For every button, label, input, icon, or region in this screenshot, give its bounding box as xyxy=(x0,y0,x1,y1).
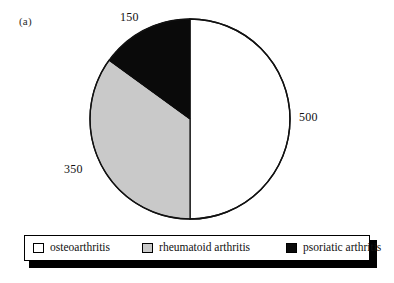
legend-swatch-psoriatic-arthritis xyxy=(286,243,297,253)
legend-label-rheumatoid-arthritis: rheumatoid arthritis xyxy=(159,242,250,254)
legend-item-rheumatoid-arthritis[interactable]: rheumatoid arthritis xyxy=(142,242,250,254)
pie-value-label-rheumatoid-arthritis: 350 xyxy=(64,162,83,177)
pie-value-label-psoriatic-arthritis: 150 xyxy=(120,10,139,25)
legend-item-osteoarthritis[interactable]: osteoarthritis xyxy=(33,242,110,254)
legend-label-osteoarthritis: osteoarthritis xyxy=(50,242,110,254)
legend: osteoarthritis rheumatoid arthritis psor… xyxy=(24,235,370,261)
pie-chart-figure: (a) 150 500 350 osteoarthritis rheumatoi… xyxy=(0,0,394,283)
legend-swatch-osteoarthritis xyxy=(33,243,44,253)
legend-item-psoriatic-arthritis[interactable]: psoriatic arthritis xyxy=(286,242,381,254)
legend-swatch-rheumatoid-arthritis xyxy=(142,243,153,253)
pie-value-label-osteoarthritis: 500 xyxy=(299,110,318,125)
pie-slice-osteoarthritis[interactable] xyxy=(190,19,290,219)
legend-label-psoriatic-arthritis: psoriatic arthritis xyxy=(303,242,381,254)
